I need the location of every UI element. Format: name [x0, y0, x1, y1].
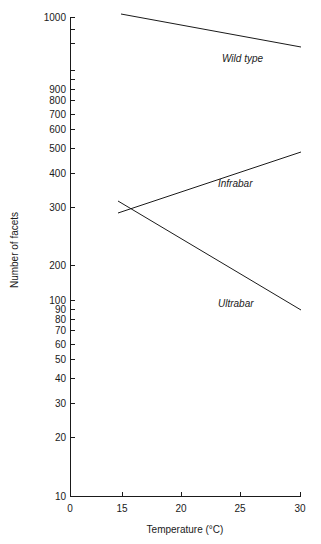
ytick-label-300: 300	[49, 202, 66, 213]
ytick-label-700: 700	[49, 109, 66, 120]
ytick-label-70: 70	[55, 325, 67, 336]
series-line-ultrabar	[118, 201, 301, 310]
series-line-infrabar	[118, 152, 301, 213]
y-axis-title: Number of facets	[9, 212, 20, 288]
x-tick-marks	[123, 492, 301, 497]
y-tick-marks	[71, 18, 75, 497]
ytick-label-10: 10	[55, 491, 67, 502]
ytick-label-800: 800	[49, 95, 66, 106]
ytick-label-100: 100	[49, 295, 66, 306]
ytick-label-30: 30	[55, 398, 67, 409]
ytick-label-1000: 1000	[44, 12, 67, 23]
x-axis-title: Temperature (°C)	[147, 524, 224, 535]
xtick-label-15: 15	[116, 503, 128, 514]
series-line-wild-type	[121, 14, 301, 47]
chart-container: 10 20 30 40 50 60 70 80 90 100 200 300 4…	[0, 0, 321, 544]
xtick-label-30: 30	[294, 503, 306, 514]
ytick-label-80: 80	[55, 314, 67, 325]
xtick-label-25: 25	[234, 503, 246, 514]
ytick-label-60: 60	[55, 339, 67, 350]
xtick-label-0: 0	[67, 503, 73, 514]
series-label-ultrabar: Ultrabar	[218, 298, 254, 309]
ytick-label-400: 400	[49, 168, 66, 179]
ytick-label-200: 200	[49, 260, 66, 271]
ytick-label-20: 20	[55, 432, 67, 443]
series-label-wild-type: Wild type	[222, 53, 263, 64]
ytick-label-600: 600	[49, 124, 66, 135]
series-label-infrabar: Infrabar	[218, 178, 253, 189]
ytick-label-50: 50	[55, 354, 67, 365]
xtick-label-20: 20	[175, 503, 187, 514]
ytick-label-40: 40	[55, 373, 67, 384]
ytick-label-500: 500	[49, 143, 66, 154]
line-chart: 10 20 30 40 50 60 70 80 90 100 200 300 4…	[0, 0, 321, 544]
ytick-label-900: 900	[49, 84, 66, 95]
